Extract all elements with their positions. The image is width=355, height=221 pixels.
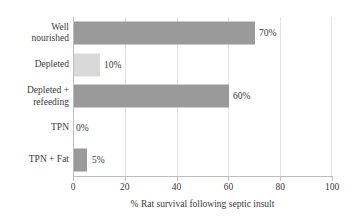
- category-label: Well nourished: [0, 21, 73, 44]
- x-tick-20: [125, 177, 126, 181]
- x-tick-label: 40: [162, 182, 192, 193]
- x-tick-80: [280, 177, 281, 181]
- bar-chart: Well nourished 70% Depleted 10% Depleted…: [0, 0, 355, 221]
- bar-value-label: 10%: [104, 59, 121, 70]
- x-tick-label: 60: [213, 182, 243, 193]
- x-axis-title: % Rat survival following septic insult: [73, 199, 332, 210]
- bar-value-label: 70%: [259, 27, 276, 38]
- bar-depleted-refeeding: [74, 85, 229, 108]
- bar-row: TPN + Fat 5%: [0, 144, 355, 176]
- category-label: Depleted + refeeding: [0, 85, 73, 108]
- bar-tpn-fat: [74, 149, 87, 172]
- x-tick-label: 0: [58, 182, 88, 193]
- x-tick-40: [177, 177, 178, 181]
- bar-value-label: 60%: [233, 91, 250, 102]
- bar-value-label: 5%: [92, 155, 105, 166]
- bar-row: TPN 0%: [0, 112, 355, 144]
- x-tick-label: 100: [317, 182, 347, 193]
- category-label: Depleted: [0, 59, 73, 71]
- category-label: TPN: [0, 123, 73, 135]
- bar-well-nourished: [74, 21, 255, 44]
- x-tick-60: [228, 177, 229, 181]
- bar-row: Well nourished 70%: [0, 17, 355, 49]
- category-label: TPN + Fat: [0, 154, 73, 166]
- bar-depleted: [74, 53, 100, 76]
- bar-row: Depleted 10%: [0, 49, 355, 81]
- bar-row: Depleted + refeeding 60%: [0, 81, 355, 113]
- bar-value-label: 0%: [76, 123, 89, 134]
- x-tick-100: [332, 177, 333, 181]
- x-axis-line: [73, 176, 333, 177]
- x-tick-label: 80: [265, 182, 295, 193]
- x-tick-label: 20: [110, 182, 140, 193]
- x-tick-0: [73, 177, 74, 181]
